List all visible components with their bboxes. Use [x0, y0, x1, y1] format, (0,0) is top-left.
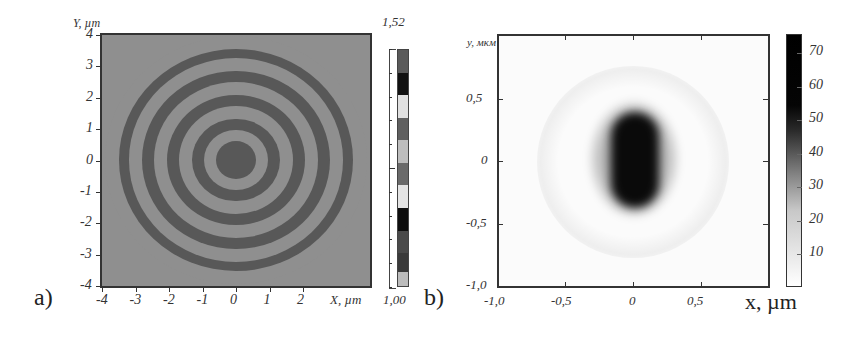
y-tick-label: 0 [481, 152, 488, 168]
x-axis-title: x, µm [745, 289, 797, 315]
colorbar-tick-mark [389, 144, 392, 145]
y-tick-label: 1 [86, 120, 93, 136]
colorbar-segment [398, 50, 408, 73]
y-tick-label: -3 [80, 246, 92, 262]
x-tick-label: 0 [230, 292, 237, 308]
x-tick-mark [270, 287, 271, 292]
y-tick-mark [96, 192, 101, 193]
colorbar-tick-label: 50 [809, 110, 823, 126]
colorbar-tick-label: 40 [809, 144, 823, 160]
colorbar-segment [398, 140, 408, 163]
y-tick-mark-right [763, 161, 768, 162]
panel-a-label: a) [34, 284, 53, 311]
x-tick-label: 2 [297, 292, 304, 308]
x-tick-mark-top [633, 35, 634, 40]
colorbar-b [786, 34, 802, 287]
colorbar-tick-mark [389, 239, 392, 240]
colorbar-tick-label: 70 [809, 43, 823, 59]
y-tick-mark [96, 35, 101, 36]
colorbar-tick-mark [389, 263, 392, 264]
x-tick-label: 0 [629, 293, 636, 309]
colorbar-a [397, 49, 409, 287]
x-tick-mark [633, 282, 634, 287]
x-tick-mark-top [498, 35, 499, 40]
x-tick-label: 1 [264, 292, 271, 308]
colorbar-tick-label: 30 [809, 177, 823, 193]
x-tick-mark [203, 287, 204, 292]
x-axis-title: X, µm [330, 292, 361, 308]
colorbar-tick-mark [389, 120, 392, 121]
panel-b-label: b) [424, 284, 444, 311]
y-tick-mark [498, 99, 503, 100]
colorbar-min-label: 1,00 [383, 292, 406, 308]
y-tick-label: 0,5 [466, 90, 482, 106]
y-tick-label: 2 [86, 89, 93, 105]
y-tick-mark [96, 98, 101, 99]
y-tick-label: -2 [80, 214, 92, 230]
colorbar-segment [398, 253, 408, 272]
ring-pattern-plot [100, 33, 372, 288]
colorbar-axis [389, 49, 396, 289]
y-tick-label: -1,0 [466, 277, 487, 293]
y-tick-mark [96, 129, 101, 130]
colorbar-tick-label: 60 [809, 77, 823, 93]
colorbar-tick-mark [389, 192, 392, 193]
y-tick-mark [96, 66, 101, 67]
colorbar-tick-mark [797, 221, 802, 222]
y-tick-mark-right [763, 286, 768, 287]
colorbar-segment [398, 231, 408, 254]
y-tick-mark [96, 255, 101, 256]
colorbar-segment [398, 95, 408, 118]
colorbar-max-label: 1,52 [382, 14, 405, 30]
ring [216, 141, 256, 179]
x-tick-label: -4 [96, 292, 108, 308]
colorbar-tick-mark [389, 97, 392, 98]
colorbar-tick-mark [797, 120, 802, 121]
y-tick-mark [96, 223, 101, 224]
x-tick-mark [236, 287, 237, 292]
colorbar-segment [398, 73, 408, 96]
colorbar-tick-label: 10 [809, 244, 823, 260]
x-tick-label: -0,5 [551, 293, 572, 309]
x-tick-mark [136, 287, 137, 292]
colorbar-segment [398, 118, 408, 141]
x-tick-mark [102, 287, 103, 292]
y-tick-label: 0 [86, 152, 93, 168]
y-tick-mark [498, 161, 503, 162]
y-tick-mark-right [763, 99, 768, 100]
colorbar-tick-mark [389, 168, 395, 169]
x-tick-label: -1 [197, 292, 209, 308]
x-tick-mark-top [701, 35, 702, 40]
colorbar-segment [398, 208, 408, 231]
y-tick-label: 3 [86, 57, 93, 73]
x-tick-label: -3 [130, 292, 142, 308]
x-tick-mark [303, 287, 304, 292]
y-tick-mark-right [763, 224, 768, 225]
colorbar-tick-mark [797, 154, 802, 155]
colorbar-segment [398, 185, 408, 208]
colorbar-segment [398, 163, 408, 186]
colorbar-tick-mark [389, 49, 392, 50]
colorbar-tick-mark [797, 187, 802, 188]
x-tick-label: -2 [163, 292, 175, 308]
y-tick-label: -1 [80, 183, 92, 199]
colorbar-tick-mark [389, 287, 392, 288]
y-axis-title: y, мкм [467, 36, 496, 48]
colorbar-tick-mark [797, 87, 802, 88]
x-tick-mark [169, 287, 170, 292]
x-tick-label: -1,0 [484, 293, 505, 309]
x-tick-mark [498, 282, 499, 287]
y-tick-label: -4 [80, 277, 92, 293]
x-tick-mark-top [565, 35, 566, 40]
y-tick-mark [96, 286, 101, 287]
x-tick-mark [565, 282, 566, 287]
y-tick-label: 4 [86, 26, 93, 42]
x-tick-mark [701, 282, 702, 287]
focal-spot-plot [497, 34, 770, 288]
colorbar-tick-mark [389, 216, 392, 217]
x-tick-label: 0,5 [687, 293, 703, 309]
spot-core [611, 112, 659, 208]
y-tick-mark [96, 161, 101, 162]
colorbar-tick-mark [389, 73, 392, 74]
colorbar-tick-mark [797, 53, 802, 54]
